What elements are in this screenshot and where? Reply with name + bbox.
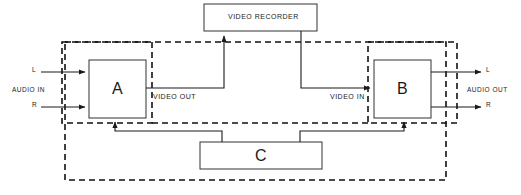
label-block-a: A	[112, 80, 123, 98]
label-left-audio-out: L	[486, 66, 490, 73]
connector-recorder-to-b	[301, 31, 370, 88]
label-audio-in: AUDIO IN	[12, 86, 45, 93]
connector-c-to-a	[115, 122, 222, 142]
label-video-out: VIDEO OUT	[153, 93, 196, 100]
connector-a-to-recorder	[146, 36, 224, 88]
label-video-recorder: VIDEO RECORDER	[228, 13, 299, 20]
label-audio-out: AUDIO OUT	[467, 86, 508, 93]
label-block-b: B	[397, 80, 408, 98]
diagram-svg	[0, 0, 521, 195]
block-diagram-canvas: L AUDIO IN R L AUDIO OUT R VIDEO OUT VID…	[0, 0, 521, 195]
label-left-audio-in: L	[32, 66, 36, 73]
label-right-audio-in: R	[32, 101, 37, 108]
connector-c-to-b	[300, 122, 404, 142]
label-video-in: VIDEO IN	[330, 93, 365, 100]
label-right-audio-out: R	[486, 101, 491, 108]
label-block-c: C	[255, 147, 267, 165]
